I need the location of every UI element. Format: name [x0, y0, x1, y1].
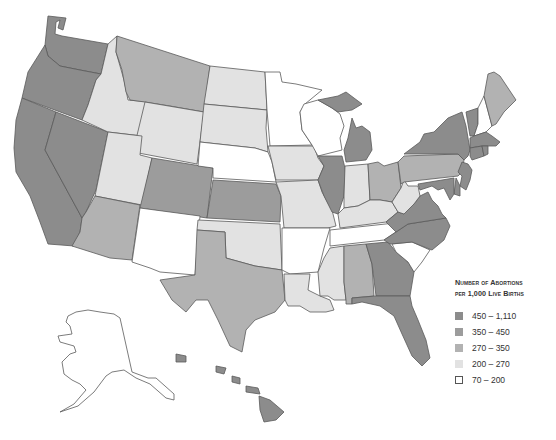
state-de[interactable] [454, 178, 460, 196]
swatch-icon [455, 312, 463, 320]
legend-label: 270 – 350 [472, 343, 510, 353]
state-wy[interactable] [133, 102, 204, 164]
legend-items: 450 – 1,110 350 – 450 270 – 350 200 – 27… [455, 308, 555, 388]
legend-title-line1: Number of Abortions [455, 277, 555, 288]
swatch-icon [455, 344, 463, 352]
state-in[interactable] [344, 164, 370, 208]
state-ct[interactable] [470, 146, 484, 160]
swatch-icon [455, 376, 463, 384]
state-nm[interactable] [132, 208, 200, 275]
state-ks[interactable] [207, 180, 281, 222]
swatch-icon [455, 360, 463, 368]
legend-label: 70 – 200 [472, 375, 505, 385]
state-nd[interactable] [204, 66, 267, 110]
state-ny[interactable] [404, 112, 470, 160]
state-co[interactable] [140, 158, 213, 218]
legend-item: 350 – 450 [455, 324, 555, 340]
legend-label: 350 – 450 [472, 327, 510, 337]
state-fl[interactable] [352, 296, 430, 366]
state-ak[interactable] [58, 310, 174, 412]
legend-title-line2: per 1,000 Live Births [455, 288, 555, 299]
legend-label: 450 – 1,110 [472, 311, 516, 321]
swatch-icon [455, 328, 463, 336]
state-hi[interactable] [176, 354, 284, 422]
legend-label: 200 – 270 [472, 359, 510, 369]
legend-item: 70 – 200 [455, 372, 555, 388]
legend: Number of Abortions per 1,000 Live Birth… [455, 277, 555, 388]
legend-item: 200 – 270 [455, 356, 555, 372]
legend-title: Number of Abortions per 1,000 Live Birth… [455, 277, 555, 299]
legend-item: 450 – 1,110 [455, 308, 555, 324]
legend-item: 270 – 350 [455, 340, 555, 356]
